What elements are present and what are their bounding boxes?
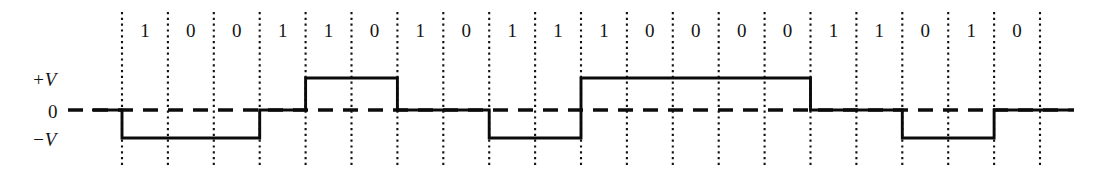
axis-labels-group: +V 0 −V bbox=[32, 69, 59, 150]
signal-waveform-figure: +V 0 −V 10011010111000011010 bbox=[0, 0, 1110, 187]
bit-label: 0 bbox=[645, 20, 655, 41]
bit-label: 0 bbox=[186, 20, 196, 41]
bit-label: 0 bbox=[783, 20, 793, 41]
axis-label-minus-v: −V bbox=[32, 129, 59, 150]
axis-label-plus-v: +V bbox=[32, 69, 59, 90]
bit-label: 1 bbox=[140, 20, 150, 41]
bit-label: 1 bbox=[553, 20, 563, 41]
bit-label: 1 bbox=[829, 20, 839, 41]
bit-label: 0 bbox=[232, 20, 242, 41]
bit-label: 0 bbox=[921, 20, 931, 41]
bit-label: 0 bbox=[691, 20, 701, 41]
signal-trace bbox=[92, 78, 1068, 138]
bit-label: 1 bbox=[278, 20, 288, 41]
bit-label: 0 bbox=[1012, 20, 1022, 41]
bit-label: 0 bbox=[737, 20, 747, 41]
bit-label: 1 bbox=[599, 20, 609, 41]
bit-label: 1 bbox=[416, 20, 426, 41]
axis-label-zero: 0 bbox=[48, 101, 58, 122]
bit-label: 0 bbox=[370, 20, 380, 41]
bit-label: 1 bbox=[875, 20, 885, 41]
bit-label: 1 bbox=[966, 20, 976, 41]
bit-label: 1 bbox=[324, 20, 334, 41]
waveform-svg: +V 0 −V 10011010111000011010 bbox=[0, 0, 1110, 187]
bit-label: 0 bbox=[462, 20, 472, 41]
bit-label: 1 bbox=[507, 20, 517, 41]
